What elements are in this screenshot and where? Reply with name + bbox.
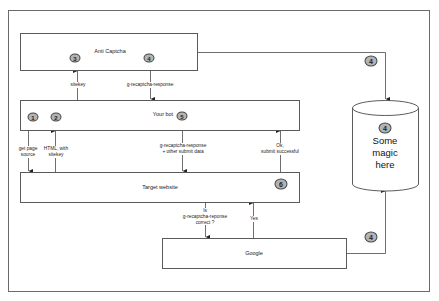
edge-label-line: HTML, with <box>44 146 68 152</box>
edge-label-ok-submit: Ok, submit successful <box>261 143 299 155</box>
anti-captcha-label: Anti Captcha <box>94 48 126 54</box>
magic-label: Some magic here <box>372 135 397 171</box>
step-badge-4-anti-to-magic: 4 <box>365 56 378 67</box>
step-badge-1: 1 <box>28 113 39 122</box>
step-badge-4-magic: 4 <box>379 123 392 134</box>
diagram-canvas: Anti Captcha 3 4 sitekey g-recaptcha-res… <box>0 0 439 301</box>
step-badge-4-google-to-magic: 4 <box>365 232 378 243</box>
your-bot-label: Your bot <box>153 111 173 117</box>
edge-label-html-with-sitekey: HTML, with sitekey <box>44 146 68 158</box>
edge-label-line: get page <box>19 146 38 152</box>
edge-label-line: g-recaptcha-response <box>160 143 207 149</box>
step-badge-4: 4 <box>144 54 155 63</box>
edge-label-yes: Yes <box>250 216 258 222</box>
edge-label-line: + other submit data <box>160 149 207 155</box>
edge-label-line: correct ? <box>183 220 227 226</box>
step-badge-2: 2 <box>51 113 62 122</box>
edge-label-g-recaptcha-response: g-recaptcha-response <box>127 82 174 88</box>
edge-label-line: source <box>19 152 38 158</box>
edge-label-get-page-source: get page source <box>19 146 38 158</box>
step-badge-5: 5 <box>177 112 188 121</box>
target-website-label: Target website <box>142 184 177 190</box>
edge-label-sitekey: sitekey <box>71 82 86 88</box>
edge-label-line: submit successful <box>261 149 299 155</box>
magic-label-line: magic <box>372 147 397 159</box>
step-badge-6: 6 <box>275 179 288 190</box>
magic-label-line: Some <box>372 135 397 147</box>
step-badge-3: 3 <box>70 54 81 63</box>
edge-label-is-correct: Is g-recaptcha-reponse correct ? <box>183 208 227 225</box>
google-label: Google <box>245 250 263 256</box>
edge-label-line: sitekey <box>44 152 68 158</box>
edge-label-submit-data: g-recaptcha-response + other submit data <box>160 143 207 155</box>
edge-label-line: g-recaptcha-reponse <box>183 214 227 220</box>
magic-label-line: here <box>372 159 397 171</box>
